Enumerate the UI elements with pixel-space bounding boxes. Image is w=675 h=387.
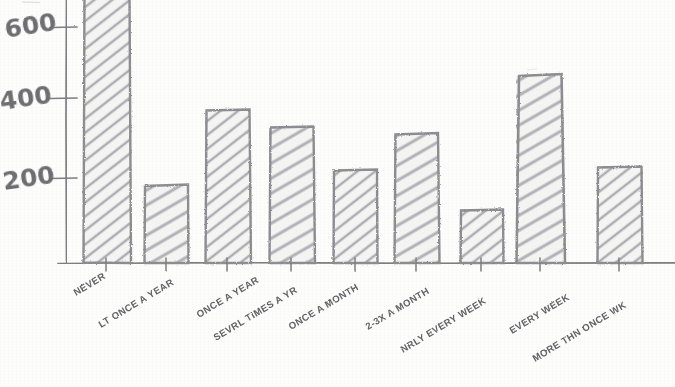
bar-nrly-every-week [460,210,504,264]
x-axis-category-labels: NEVER LT ONCE A YEAR ONCE A YEAR SEVRL T… [71,270,628,364]
y-tick-400 [50,98,77,99]
cat-label-every-week: EVERY WEEK [507,291,571,335]
y-axis [66,0,67,263]
bar-lt-once-a-year [144,185,189,264]
cat-label-2-3x-a-month: 2-3X A MONTH [363,285,431,332]
bar-2-3x-a-month [394,133,440,263]
bar-never [83,0,131,263]
cat-label-never: NEVER [71,270,107,298]
bar-once-a-month [333,170,378,264]
bar-sevrl-times-a-yr [269,127,315,264]
bar-every-week [516,74,565,263]
hand-drawn-bar-chart: 600 400 200 [0,0,675,387]
y-tick-label-600: 600 [2,7,58,44]
y-tick-label-400: 400 [0,80,54,116]
bar-once-a-year [205,110,251,264]
y-tick-label-200: 200 [1,160,57,196]
chart-screenshot: 600 400 200 [0,0,675,387]
cat-label-once-a-month: ONCE A MONTH [286,281,360,332]
y-axis-ticks [50,27,77,179]
bar-more-thn-once-wk [597,167,643,264]
cat-label-lt-once-a-year: LT ONCE A YEAR [96,276,175,330]
